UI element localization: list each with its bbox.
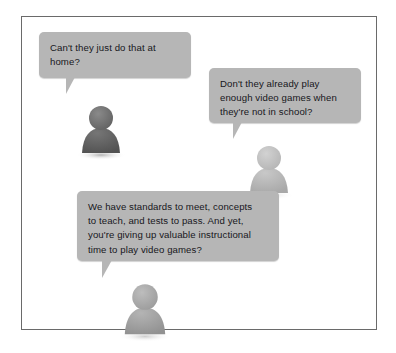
speech-bubble-1-text: Can't they just do that at home? xyxy=(50,41,180,69)
avatar-3 xyxy=(112,279,178,345)
speech-bubble-2: Don't they already play enough video gam… xyxy=(209,68,361,123)
person-icon xyxy=(112,279,178,345)
speech-bubble-1-tail xyxy=(66,77,75,94)
speech-bubble-2-tail xyxy=(233,122,242,139)
person-icon xyxy=(70,101,132,163)
speech-bubble-1: Can't they just do that at home? xyxy=(39,32,191,78)
avatar-body xyxy=(250,168,288,193)
speech-bubble-2-text: Don't they already play enough video gam… xyxy=(220,77,350,120)
illustration-frame: Can't they just do that at home? xyxy=(21,16,377,330)
avatar-head xyxy=(257,146,281,170)
avatar-head xyxy=(132,284,158,310)
speech-bubble-3: We have standards to meet, concepts to t… xyxy=(77,191,279,261)
avatar-head xyxy=(89,106,113,130)
avatar-body xyxy=(82,128,120,153)
avatar-1 xyxy=(70,101,132,163)
avatar-body xyxy=(125,308,165,335)
speech-bubble-3-tail xyxy=(102,260,112,278)
illustration-canvas: Can't they just do that at home? xyxy=(0,0,396,353)
speech-bubble-3-text: We have standards to meet, concepts to t… xyxy=(88,200,268,257)
